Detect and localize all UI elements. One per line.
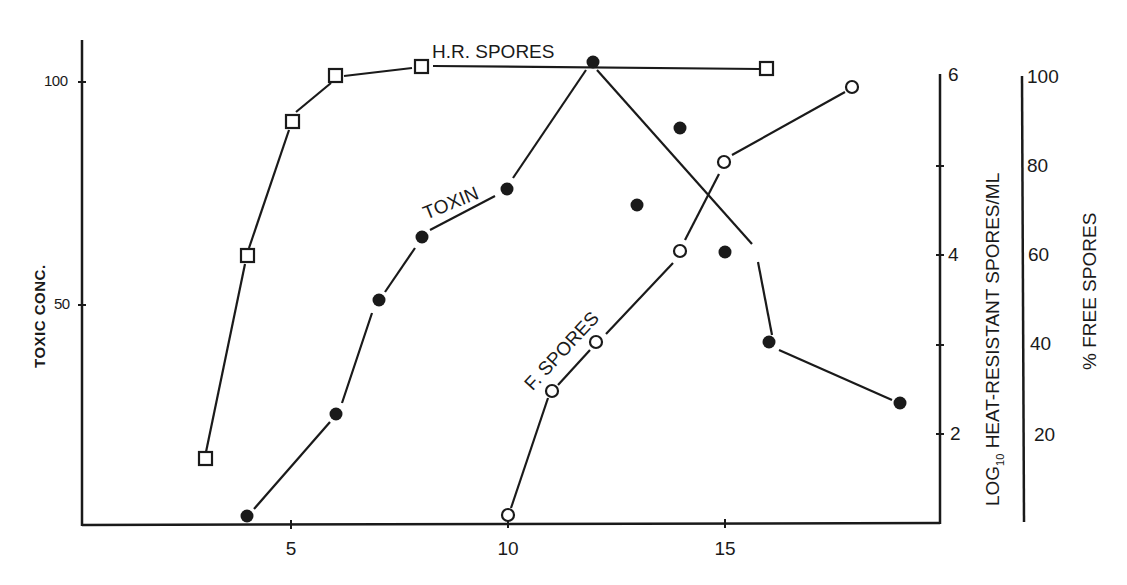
series-hr-spores — [199, 60, 773, 465]
left-tick-50: 50 — [54, 295, 70, 312]
x-tick-15: 15 — [714, 538, 735, 560]
r1-title-sub: 10 — [994, 454, 1006, 466]
r2-tick-60: 60 — [1028, 244, 1049, 266]
x-tick-5: 5 — [286, 538, 297, 560]
r2-tick-80: 80 — [1027, 155, 1048, 177]
r2-tick-40: 40 — [1030, 333, 1051, 355]
right-axis-percent — [1022, 76, 1024, 522]
r1-tick-6: 6 — [948, 64, 959, 86]
r1-axis-title: LOG10 HEAT-RESISTANT SPORES/ML — [982, 173, 1006, 506]
r1-title-rest: HEAT-RESISTANT SPORES/ML — [982, 173, 1003, 454]
r1-title-main: LOG — [982, 466, 1003, 506]
left-axis-title: TOXIC CONC. — [31, 264, 48, 368]
r1-tick-4: 4 — [948, 244, 959, 266]
chart-plot-area — [0, 0, 1127, 585]
series-f-spores — [502, 81, 858, 521]
x-tick-10: 10 — [497, 538, 518, 560]
r2-tick-100: 100 — [1027, 66, 1059, 88]
r1-tick-2: 2 — [950, 423, 961, 445]
axes — [82, 40, 1024, 526]
series-label-hr-spores: H.R. SPORES — [432, 41, 554, 63]
left-tick-100: 100 — [44, 72, 68, 89]
r2-axis-title: % FREE SPORES — [1079, 213, 1101, 370]
x-axis — [82, 523, 940, 525]
series-toxin — [254, 70, 892, 509]
toxin-points — [241, 56, 907, 523]
r2-tick-20: 20 — [1034, 424, 1055, 446]
